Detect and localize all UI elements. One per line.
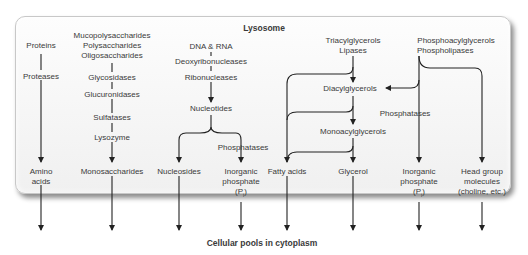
glycosidases-label: Glycosidases	[88, 73, 136, 83]
diacylglycerols-label: Diacylglycerols	[323, 84, 376, 94]
proteases-label: Proteases	[23, 72, 59, 82]
inorganic-phosphate-label-1: Inorganic phosphate (Pi)	[222, 167, 259, 200]
glucuronidases-label: Glucuronidases	[84, 90, 140, 100]
fatty-acids-label: Fatty acids	[268, 167, 307, 177]
nucleotide-phosphatases-label: Phosphatases	[218, 143, 269, 153]
ribonucleases-label: Ribonucleases	[185, 73, 237, 83]
lipases-label: Lipases	[339, 46, 367, 56]
head-group-line: Head group	[461, 167, 503, 176]
nucleosides-label: Nucleosides	[157, 167, 201, 177]
nucleotides-label: Nucleotides	[190, 104, 232, 114]
proteins-label: Proteins	[26, 41, 55, 51]
diagram-title: Lysosome	[243, 23, 285, 33]
pi-open: (P	[413, 187, 421, 196]
amino-acids-line2: acids	[32, 177, 51, 186]
inorganic-line: Inorganic	[225, 167, 258, 176]
triacylglycerols-label: Triacylglycerols	[326, 36, 381, 46]
dna-rna-label: DNA & RNA	[189, 42, 232, 52]
monoacylglycerols-label: Monoacylglycerols	[320, 127, 386, 137]
amino-acids-label: Amino acids	[30, 167, 53, 187]
head-group-molecules-label: Head group molecules (choline, etc.)	[458, 167, 506, 197]
phospholipid-phosphatases-label: Phosphatases	[380, 109, 431, 119]
monosaccharides-label: Monosaccharides	[81, 167, 144, 177]
sulfatases-label: Sulfatases	[93, 113, 130, 123]
oligosaccharides-label: Oligosaccharides	[81, 51, 142, 61]
inorganic-phosphate-label-2: Inorganic phosphate (Pi)	[400, 167, 437, 200]
pi-close: )	[244, 187, 247, 196]
amino-acids-line1: Amino	[30, 167, 53, 176]
deoxyribonucleases-label: Deoxyribonucleases	[175, 57, 247, 67]
polysaccharides-label: Polysaccharides	[83, 41, 141, 51]
phosphate-line: phosphate	[400, 177, 437, 186]
mucopolysaccharides-label: Mucopolysaccharides	[74, 31, 151, 41]
lysozyme-label: Lysozyme	[94, 133, 130, 143]
phospholipases-label: Phospholipases	[417, 46, 473, 56]
pi-open: (P	[235, 187, 243, 196]
inorganic-line: Inorganic	[403, 167, 436, 176]
choline-line: (choline, etc.)	[458, 187, 506, 196]
glycerol-label: Glycerol	[338, 167, 367, 177]
phosphate-line: phosphate	[222, 177, 259, 186]
cellular-pools-label: Cellular pools in cytoplasm	[207, 238, 318, 248]
phosphoacylglycerols-label: Phosphoacylglycerols	[417, 36, 494, 46]
pi-close: )	[422, 187, 425, 196]
molecules-line: molecules	[464, 177, 500, 186]
